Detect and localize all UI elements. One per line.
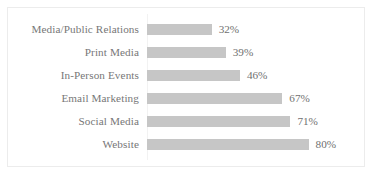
bar-media-public-relations bbox=[147, 24, 212, 35]
bar-chart-plot-area: Media/Public Relations 32% Print Media 3… bbox=[8, 8, 364, 166]
category-label-print-media: Print Media bbox=[8, 47, 139, 58]
value-label-website: 80% bbox=[316, 139, 337, 150]
bar-row: Social Media 71% bbox=[8, 110, 364, 133]
bar-track: 32% bbox=[147, 18, 239, 41]
bar-social-media bbox=[147, 116, 290, 127]
bar-row: Media/Public Relations 32% bbox=[8, 18, 364, 41]
value-label-in-person-events: 46% bbox=[247, 70, 268, 81]
bar-website bbox=[147, 139, 309, 150]
value-label-social-media: 71% bbox=[297, 116, 318, 127]
value-label-email-marketing: 67% bbox=[289, 93, 310, 104]
category-label-website: Website bbox=[8, 139, 139, 150]
category-label-media-public-relations: Media/Public Relations bbox=[8, 24, 139, 35]
value-label-print-media: 39% bbox=[233, 47, 254, 58]
bar-track: 80% bbox=[147, 133, 336, 156]
bar-row: Print Media 39% bbox=[8, 41, 364, 64]
bar-email-marketing bbox=[147, 93, 282, 104]
bar-track: 39% bbox=[147, 41, 253, 64]
bar-row: Email Marketing 67% bbox=[8, 87, 364, 110]
bar-in-person-events bbox=[147, 70, 240, 81]
bar-track: 67% bbox=[147, 87, 310, 110]
bar-row: Website 80% bbox=[8, 133, 364, 156]
category-label-in-person-events: In-Person Events bbox=[8, 70, 139, 81]
category-label-social-media: Social Media bbox=[8, 116, 139, 127]
category-label-email-marketing: Email Marketing bbox=[8, 93, 139, 104]
bar-row: In-Person Events 46% bbox=[8, 64, 364, 87]
bar-print-media bbox=[147, 47, 226, 58]
bar-track: 46% bbox=[147, 64, 267, 87]
value-label-media-public-relations: 32% bbox=[219, 24, 240, 35]
bar-track: 71% bbox=[147, 110, 318, 133]
chart-frame: Media/Public Relations 32% Print Media 3… bbox=[7, 7, 365, 167]
